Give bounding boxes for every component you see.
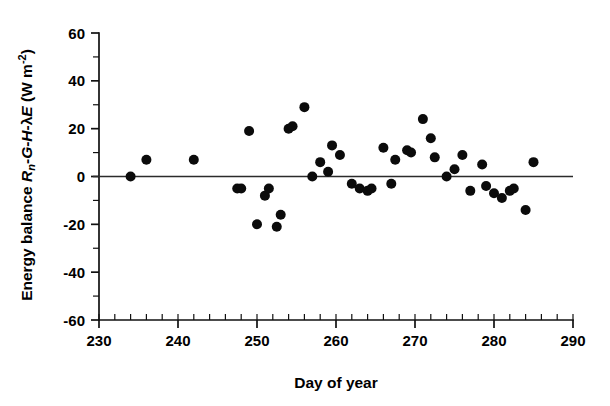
- scatter-plot: 230240250260270280290 -60-40-200204060 D…: [0, 0, 610, 406]
- data-point: [529, 157, 539, 167]
- data-point: [272, 222, 282, 232]
- x-tick-label: 290: [560, 332, 585, 349]
- y-tick-label: 60: [68, 25, 85, 42]
- data-point: [406, 148, 416, 158]
- data-point: [426, 133, 436, 143]
- data-point: [367, 183, 377, 193]
- ylabel-prefix: Energy balance: [18, 182, 35, 301]
- y-tick-label: -20: [63, 216, 85, 233]
- y-tick-label: -60: [63, 312, 85, 329]
- data-point: [430, 152, 440, 162]
- data-point: [497, 193, 507, 203]
- data-point: [323, 167, 333, 177]
- ylabel-g: G: [18, 147, 35, 159]
- data-point: [335, 150, 345, 160]
- y-tick-labels: -60-40-200204060: [63, 25, 85, 329]
- data-point: [264, 183, 274, 193]
- x-tick-label: 250: [244, 332, 269, 349]
- ylabel-h: H: [18, 130, 35, 142]
- x-tick-label: 270: [402, 332, 427, 349]
- data-point: [390, 155, 400, 165]
- data-point: [299, 102, 309, 112]
- x-axis-title: Day of year: [294, 374, 378, 391]
- svg-text:Energy balance Rn-G-H-λE (W m-: Energy balance Rn-G-H-λE (W m-2): [16, 49, 37, 301]
- y-tick-label: -40: [63, 264, 85, 281]
- data-point: [509, 183, 519, 193]
- data-point: [481, 181, 491, 191]
- data-point: [442, 172, 452, 182]
- x-tick-label: 230: [86, 332, 111, 349]
- x-tick-labels: 230240250260270280290: [86, 332, 585, 349]
- data-point: [386, 179, 396, 189]
- data-point: [276, 210, 286, 220]
- data-point: [315, 157, 325, 167]
- data-point: [477, 160, 487, 170]
- ylabel-e: E: [18, 106, 35, 117]
- data-point: [465, 186, 475, 196]
- y-axis-title: Energy balance Rn-G-H-λE (W m-2): [16, 49, 37, 301]
- x-tick-label: 280: [481, 332, 506, 349]
- x-tick-label: 260: [323, 332, 348, 349]
- data-point: [236, 183, 246, 193]
- data-point: [126, 172, 136, 182]
- data-point: [327, 140, 337, 150]
- data-point: [521, 205, 531, 215]
- data-points-layer: [126, 102, 539, 232]
- data-point: [252, 219, 262, 229]
- y-tick-label: 0: [77, 168, 85, 185]
- data-point: [378, 143, 388, 153]
- ylabel-units-exponent: -2: [16, 54, 28, 64]
- data-point: [307, 172, 317, 182]
- figure-container: 230240250260270280290 -60-40-200204060 D…: [0, 0, 610, 406]
- ylabel-rn: R: [18, 170, 35, 182]
- ylabel-units: (W m: [18, 64, 35, 106]
- data-point: [141, 155, 151, 165]
- ylabel-units-close: ): [18, 49, 35, 54]
- data-point: [457, 150, 467, 160]
- x-tick-label: 240: [165, 332, 190, 349]
- data-point: [288, 121, 298, 131]
- data-point: [418, 114, 428, 124]
- y-tick-label: 40: [68, 72, 85, 89]
- data-point: [244, 126, 254, 136]
- y-tick-label: 20: [68, 120, 85, 137]
- data-point: [189, 155, 199, 165]
- data-point: [450, 164, 460, 174]
- axis-layer: [91, 33, 573, 328]
